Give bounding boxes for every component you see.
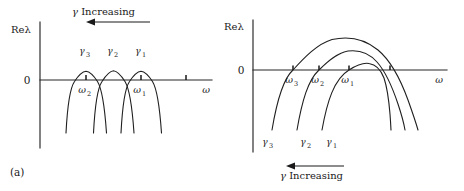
panel-b-y-axis-label: Reλ: [224, 21, 244, 32]
panel-a-curve-label-gamma3: γ 3: [79, 46, 90, 59]
svg-text:2: 2: [307, 142, 311, 150]
svg-text:γ: γ: [262, 137, 268, 147]
panel-b-arrow-left-icon: [286, 163, 344, 170]
svg-text:2: 2: [87, 90, 91, 98]
panel-b-origin-label: 0: [238, 64, 245, 76]
panel-a-arrow-left-icon: [86, 19, 150, 26]
svg-text:2: 2: [114, 51, 118, 59]
svg-text:γ: γ: [326, 137, 332, 147]
panel-a-annotation-word: Increasing: [81, 6, 135, 17]
svg-text:3: 3: [86, 51, 90, 59]
panel-a-curve-label-gamma1: γ 1: [135, 46, 146, 59]
panel-b-annotation-greek: γ: [280, 170, 286, 181]
svg-text:3: 3: [294, 80, 298, 88]
svg-text:1: 1: [350, 80, 354, 88]
panel-b-tick-label-1: ω 2: [311, 74, 324, 88]
panel-a-caption: (a): [10, 166, 24, 178]
svg-text:1: 1: [142, 90, 146, 98]
panel-a-plot: Reλ 0 ω ω 2 ω 1 γ: [0, 0, 232, 191]
svg-text:γ: γ: [107, 46, 113, 56]
svg-text:2: 2: [320, 80, 324, 88]
panel-b-tick-label-0: ω 3: [285, 74, 298, 88]
panel-b-curve-label-gamma3: γ 3: [262, 137, 273, 150]
panel-b-plot: Reλ 0 ω ω 3 ω 2 ω 1: [232, 0, 464, 191]
panel-b-tick-label-2: ω 1: [341, 74, 354, 88]
svg-text:γ: γ: [79, 46, 85, 56]
panel-b: γ Increasing Reλ 0 ω ω 3 ω 2: [232, 0, 464, 191]
svg-text:1: 1: [333, 142, 337, 150]
panel-a-annotation-text: γ Increasing: [72, 6, 135, 17]
svg-text:ω: ω: [311, 74, 319, 85]
panel-a-tick-label-1: ω 1: [133, 84, 146, 98]
panel-a: γ Increasing Reλ 0 ω ω 2: [0, 0, 232, 191]
svg-text:ω: ω: [133, 84, 141, 95]
svg-text:γ: γ: [135, 46, 141, 56]
figure-root: γ Increasing Reλ 0 ω ω 2: [0, 0, 464, 191]
svg-text:γ: γ: [300, 137, 306, 147]
panel-b-annotation-word: Increasing: [289, 170, 343, 181]
panel-b-curve-label-gamma1: γ 1: [326, 137, 337, 150]
panel-a-tick-label-0: ω 2: [78, 84, 91, 98]
panel-a-y-axis-label: Reλ: [11, 24, 31, 35]
panel-a-curve-label-gamma2: γ 2: [107, 46, 118, 59]
panel-b-annotation-text: γ Increasing: [280, 170, 343, 181]
panel-a-origin-label: 0: [24, 74, 31, 86]
panel-a-x-axis-label: ω: [202, 84, 210, 95]
panel-b-curve-label-gamma2: γ 2: [300, 137, 311, 150]
panel-a-annotation-greek: γ: [72, 6, 78, 17]
panel-b-x-axis-label: ω: [435, 74, 443, 85]
panel-b-curve-gamma1: [322, 63, 391, 130]
svg-text:ω: ω: [78, 84, 86, 95]
svg-text:3: 3: [269, 142, 273, 150]
svg-text:1: 1: [142, 51, 146, 59]
